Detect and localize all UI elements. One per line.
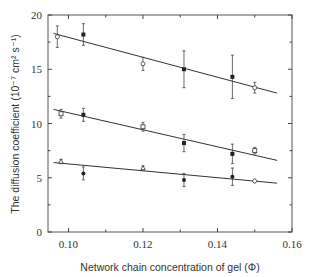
data-point — [230, 55, 234, 98]
open-triangle-marker — [141, 165, 145, 169]
y-tick-label: 10 — [31, 118, 43, 130]
y-axis-title: The diffusion coefficient (10⁻⁷ cm² s⁻¹) — [9, 34, 21, 213]
open-circle-marker — [55, 35, 59, 39]
fit-line — [54, 33, 278, 93]
data-point — [81, 108, 85, 121]
fit-lines — [54, 33, 278, 183]
data-point — [55, 26, 59, 48]
diffusion-coefficient-chart: 0.100.120.140.16 05101520 Network chain … — [0, 0, 314, 277]
open-square-marker — [253, 149, 257, 153]
fit-line — [54, 109, 278, 160]
data-point — [253, 82, 257, 93]
x-tick-label: 0.12 — [133, 238, 152, 250]
y-tick-label: 15 — [31, 63, 43, 75]
filled-square-marker — [182, 67, 186, 71]
filled-square-marker — [81, 113, 85, 117]
filled-square-marker — [230, 75, 234, 79]
filled-circle-marker — [81, 171, 85, 175]
x-axis-title: Network chain concentration of gel (Φ) — [80, 261, 259, 273]
open-circle-marker — [253, 86, 257, 90]
x-tick-label: 0.10 — [59, 238, 79, 250]
data-point — [81, 167, 85, 180]
x-axis-ticks: 0.100.120.140.16 — [59, 15, 302, 250]
y-tick-label: 0 — [37, 226, 43, 238]
data-point — [59, 159, 63, 164]
open-square-marker — [59, 112, 63, 116]
fit-line — [54, 163, 278, 184]
y-tick-label: 20 — [31, 9, 43, 21]
data-point — [182, 51, 186, 88]
y-tick-label: 5 — [37, 172, 43, 184]
data-point — [141, 165, 145, 170]
y-axis-ticks: 05101520 — [31, 9, 292, 238]
data-point — [230, 168, 234, 185]
open-circle-marker — [141, 62, 145, 66]
data-point — [230, 144, 234, 164]
open-square-marker — [141, 125, 145, 129]
data-points — [55, 24, 257, 187]
data-point — [252, 179, 257, 184]
data-point — [253, 147, 257, 154]
filled-circle-marker — [230, 175, 234, 179]
filled-circle-marker — [182, 178, 186, 182]
x-tick-label: 0.14 — [208, 238, 228, 250]
data-point — [141, 57, 145, 70]
open-triangle-marker — [59, 159, 63, 163]
plot-frame — [48, 15, 292, 232]
data-point — [182, 173, 186, 186]
filled-square-marker — [81, 33, 85, 37]
open-diamond-marker — [252, 179, 257, 184]
filled-square-marker — [182, 141, 186, 145]
x-tick-label: 0.16 — [282, 238, 302, 250]
data-point — [182, 134, 186, 151]
filled-square-marker — [230, 152, 234, 156]
